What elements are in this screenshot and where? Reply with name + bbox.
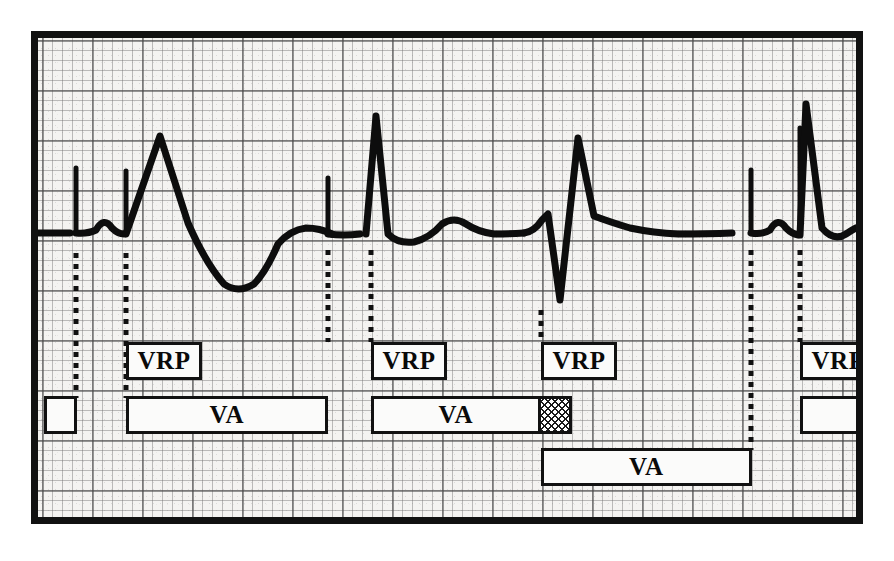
va-box-2[interactable]: VA [371, 396, 541, 434]
va-truncation-hatch-box[interactable] [541, 396, 572, 434]
va-box-3[interactable]: VA [541, 448, 752, 486]
vrp-box-4[interactable]: VRP [800, 342, 863, 380]
vrp-label-3: VRP [553, 347, 606, 375]
va-label-2: VA [439, 401, 474, 429]
vrp-box-3[interactable]: VRP [541, 342, 617, 380]
va-label-3: VA [629, 453, 664, 481]
vrp-box-1[interactable]: VRP [126, 342, 202, 380]
blank-interval-box-left[interactable] [44, 396, 77, 434]
vrp-label-1: VRP [138, 347, 191, 375]
va-box-1[interactable]: VA [126, 396, 328, 434]
blank-interval-box-right[interactable] [800, 396, 863, 434]
figure-canvas: VRP VRP VRP VRP VA VA VA [0, 0, 894, 561]
ecg-trace [38, 104, 856, 300]
vrp-label-4: VRP [812, 347, 863, 375]
ecg-waveform-layer [38, 38, 856, 517]
ecg-strip-frame: VRP VRP VRP VRP VA VA VA [31, 31, 863, 524]
vrp-box-2[interactable]: VRP [371, 342, 447, 380]
va-label-1: VA [210, 401, 245, 429]
vrp-label-2: VRP [383, 347, 436, 375]
